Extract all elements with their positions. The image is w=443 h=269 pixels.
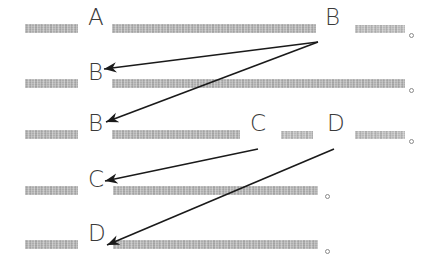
entity-mention-label: B — [88, 61, 103, 84]
coreference-arrow — [104, 42, 318, 69]
redacted-text-bar — [112, 130, 240, 139]
text-line: D — [0, 0, 443, 26]
entity-mention-label: D — [327, 112, 345, 135]
coreference-arrow — [107, 149, 334, 245]
entity-mention-label: C — [88, 168, 104, 191]
coreference-arrow — [105, 149, 258, 181]
line-end-marker-icon — [325, 249, 330, 254]
entity-mention-label: C — [250, 112, 266, 135]
line-end-marker-icon — [409, 88, 414, 93]
redacted-text-bar — [113, 186, 318, 195]
redacted-text-bar — [25, 130, 78, 139]
redacted-text-bar — [281, 131, 313, 139]
entity-mention-label: B — [88, 112, 103, 135]
redacted-text-bar — [113, 240, 318, 249]
redacted-text-bar — [355, 25, 405, 33]
redacted-text-bar — [25, 186, 78, 195]
line-end-marker-icon — [409, 33, 414, 38]
entity-mention-label: D — [88, 222, 106, 245]
line-end-marker-icon — [325, 194, 330, 199]
line-end-marker-icon — [409, 139, 414, 144]
redacted-text-bar — [25, 240, 78, 249]
coreference-annotation-figure: ABBBCDCD — [0, 0, 443, 269]
redacted-text-bar — [112, 79, 405, 88]
redacted-text-bar — [355, 131, 405, 139]
redacted-text-bar — [25, 79, 78, 88]
